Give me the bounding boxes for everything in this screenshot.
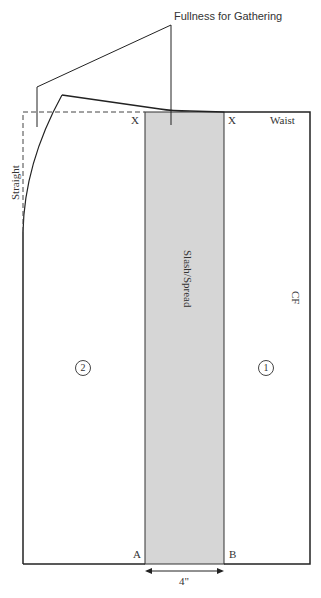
new-side-curve xyxy=(23,95,62,232)
new-waist-line xyxy=(62,95,224,112)
straight-label: Straight xyxy=(9,165,21,200)
original-outline-dashed xyxy=(23,112,145,232)
point-b-label: B xyxy=(229,548,236,560)
waist-label: Waist xyxy=(270,114,295,126)
pattern-drawing xyxy=(0,0,321,598)
pattern-outline-right xyxy=(224,112,310,564)
x-mark-right: X xyxy=(228,114,236,126)
callout-label: Fullness for Gathering xyxy=(174,10,282,22)
width-label: 4" xyxy=(179,575,189,587)
point-a-label: A xyxy=(133,548,141,560)
piece-2-marker: 2 xyxy=(75,360,91,376)
slash-spread-strip xyxy=(145,112,224,564)
piece-1-marker: 1 xyxy=(258,360,274,376)
slash-spread-label: Slash/Spread xyxy=(182,250,194,307)
arrow-head-right xyxy=(217,568,224,574)
arrow-head-left xyxy=(145,568,152,574)
x-mark-left: X xyxy=(131,114,139,126)
cf-label: CF xyxy=(290,291,302,304)
